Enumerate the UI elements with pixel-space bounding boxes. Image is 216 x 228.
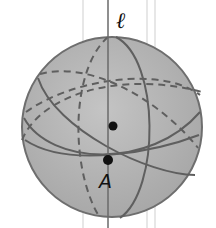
line-label: ℓ [116, 8, 126, 33]
point-A-label: A [97, 170, 112, 192]
center-point [109, 122, 118, 131]
point-A [103, 155, 113, 165]
sphere-diagram: ℓ A [0, 0, 216, 228]
